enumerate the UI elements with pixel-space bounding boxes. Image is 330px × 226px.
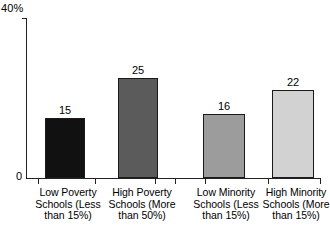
- x-axis-tick: [320, 179, 321, 184]
- bar-low-minority: [203, 114, 245, 178]
- x-axis-label-high-poverty: High Poverty Schools (More than 50%): [98, 187, 186, 222]
- y-axis-zero-label: 0: [16, 170, 22, 182]
- bar-value-label: 15: [45, 104, 85, 116]
- x-axis-tick: [155, 179, 156, 184]
- bar-value-label: 25: [118, 64, 158, 76]
- bar-group-high-minority: 22: [272, 18, 314, 178]
- bar-high-poverty: [118, 78, 158, 178]
- x-axis-label-high-minority: High Minority Schools (More than 15%): [252, 187, 330, 222]
- x-axis-tick: [268, 179, 269, 184]
- bar-group-low-poverty: 15: [45, 18, 85, 178]
- bar-high-minority: [272, 90, 314, 178]
- x-axis-tick: [38, 179, 39, 184]
- plot-area: 15 25 16 22: [26, 18, 321, 178]
- bar-value-label: 22: [272, 76, 314, 88]
- x-axis-tick: [95, 179, 96, 184]
- bar-group-low-minority: 16: [203, 18, 245, 178]
- y-axis-max-label: 40%: [1, 2, 23, 14]
- bar-group-high-poverty: 25: [118, 18, 158, 178]
- bar-value-label: 16: [203, 100, 245, 112]
- x-axis-tick: [175, 179, 176, 184]
- bar-low-poverty: [45, 118, 85, 178]
- x-axis-tick: [205, 179, 206, 184]
- bar-chart: 40% 0 15 25 16 22 Low Poverty Schools (L…: [0, 0, 330, 226]
- x-axis-line: [26, 178, 321, 179]
